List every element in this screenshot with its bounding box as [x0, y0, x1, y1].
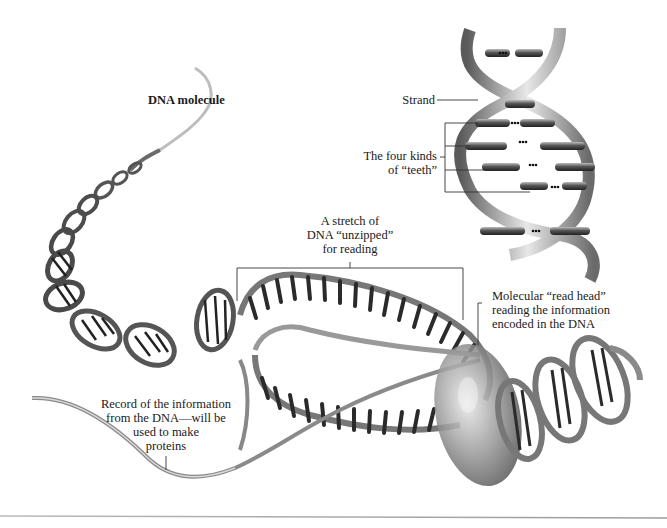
dna-coil-left: [42, 150, 238, 374]
inset-helix: [460, 28, 595, 280]
label-strand: Strand: [380, 93, 435, 107]
teeth-bracket: [440, 123, 530, 192]
label-record: Record of the information from the DNA—w…: [86, 397, 246, 453]
label-four-kinds-teeth: The four kinds of “teeth”: [340, 149, 437, 177]
dna-diagram: DNA molecule Strand The four kinds of “t…: [0, 0, 667, 528]
label-dna-molecule: DNA molecule: [148, 93, 225, 107]
read-head-leader: [478, 303, 482, 345]
label-read-head: Molecular “read head” reading the inform…: [492, 289, 610, 331]
dna-tail: [160, 68, 211, 150]
read-head: [422, 336, 534, 494]
label-unzipped-stretch: A stretch of DNA “unzipped” for reading: [290, 214, 410, 256]
bottom-rule: [0, 516, 667, 518]
